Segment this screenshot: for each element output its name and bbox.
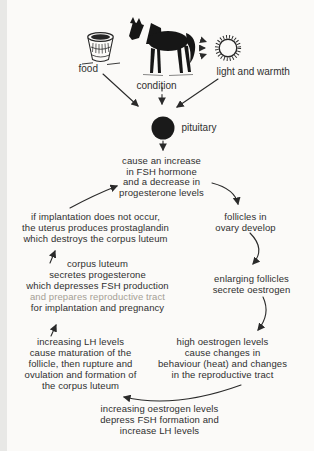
text-line: follicle, then rupture and (11, 358, 151, 369)
text-line: and prepares reproductive tract (10, 291, 186, 302)
arrow-lh-to-corpus (51, 325, 56, 336)
node-implantation: if implantation does not occur, the uter… (11, 211, 181, 244)
text-line: secrete oestrogen (197, 284, 307, 295)
text-line: high oestrogen levels (153, 336, 293, 347)
light-and-warmth-label: light and warmth (217, 66, 290, 77)
text-line: behaviour (heat) and changes (153, 358, 293, 369)
node-enlarging-follicles: enlarging follicles secrete oestrogen (197, 273, 307, 295)
arrow-follicles-to-enlarging (250, 233, 259, 264)
node-corpus-luteum: corpus luteum secretes progesterone whic… (10, 258, 186, 313)
text-line: for implantation and pregnancy (10, 302, 186, 313)
text-line: cause maturation of the (11, 347, 151, 358)
pituitary-dot (151, 117, 174, 140)
node-increasing-lh: increasing LH levels cause maturation of… (11, 336, 151, 391)
text-line: secretes progesterone (10, 269, 186, 280)
condition-label: condition (137, 80, 177, 91)
text-line: which depresses FSH production (10, 280, 186, 291)
arrow-light-to-pituitary (177, 79, 218, 107)
node-follicles-develop: follicles in ovary develop (201, 211, 291, 233)
text-line: follicles in (201, 211, 291, 222)
arrow-enlarging-to-high (258, 297, 266, 330)
text-line: the corpus luteum (11, 380, 151, 391)
oestrous-cycle-diagram: food condition light and warmth pituitar… (7, 0, 314, 451)
text-line: cause an increase (102, 156, 222, 167)
text-line: progesterone levels (102, 188, 222, 199)
text-line: which destroys the corpus luteum (11, 233, 181, 244)
node-fsh-increase: cause an increase in FSH hormone and a d… (102, 156, 222, 198)
text-line: corpus luteum (10, 258, 186, 269)
food-label: food (79, 63, 98, 74)
node-high-oestrogen: high oestrogen levels cause changes in b… (153, 336, 293, 380)
text-line: in the reproductive tract (153, 369, 293, 380)
text-line: increasing LH levels (11, 336, 151, 347)
sun-icon (197, 30, 247, 68)
text-line: enlarging follicles (197, 273, 307, 284)
text-line: depress FSH formation and (85, 414, 235, 425)
text-line: increase LH levels (85, 425, 235, 436)
node-oestrogen-feedback: increasing oestrogen levels depress FSH … (85, 403, 235, 436)
text-line: ovary develop (201, 222, 291, 233)
text-line: ovulation and formation of (11, 369, 151, 380)
text-line: increasing oestrogen levels (85, 403, 235, 414)
pituitary-label: pituitary (182, 122, 217, 133)
text-line: the uterus produces prostaglandin (11, 222, 181, 233)
horse-icon (127, 16, 201, 80)
text-line: cause changes in (153, 347, 293, 358)
text-line: and a decrease in (102, 177, 222, 188)
text-line: if implantation does not occur, (11, 211, 181, 222)
